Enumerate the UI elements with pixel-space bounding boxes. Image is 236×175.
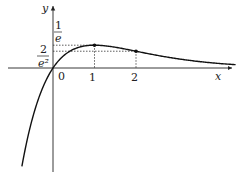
y-tick-2e2-den: e²	[38, 57, 49, 70]
function-curve	[22, 45, 236, 166]
y-axis-label: y	[41, 2, 49, 15]
x-axis-label: x	[215, 70, 222, 83]
x-tick-2: 2	[131, 71, 138, 84]
x-tick-1: 1	[89, 71, 96, 84]
marked-point	[134, 49, 138, 53]
y-tick-2e2-num: 2	[40, 43, 47, 56]
y-tick-1e-den: e	[55, 32, 62, 45]
y-tick-1e-num: 1	[55, 19, 62, 32]
function-plot: y x 0 1 2 1 e 2 e²	[0, 0, 236, 175]
marked-point	[93, 43, 97, 47]
labels: y x 0 1 2 1 e 2 e²	[37, 2, 222, 84]
origin-label: 0	[58, 70, 65, 83]
